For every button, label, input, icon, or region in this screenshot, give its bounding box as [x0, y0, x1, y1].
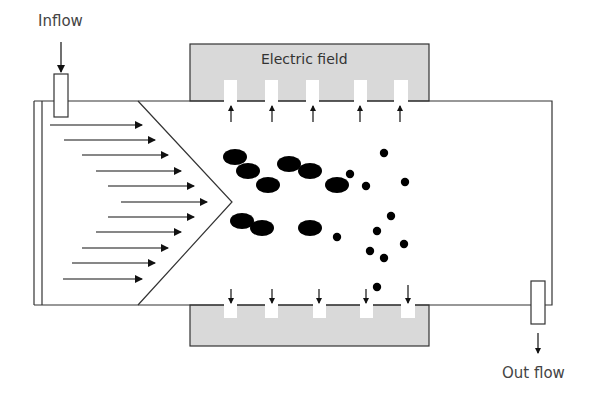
large-particles	[223, 149, 349, 236]
outflow-label: Out flow	[502, 364, 565, 382]
channel	[34, 101, 552, 305]
field-arrows-top	[231, 106, 400, 122]
electric-field-label: Electric field	[261, 51, 348, 67]
field-arrows-bottom	[231, 285, 408, 303]
bottom-electrode	[190, 304, 429, 346]
inflow-label: Inflow	[38, 12, 83, 30]
inflow-port	[54, 42, 68, 117]
small-particles	[333, 149, 409, 291]
outflow-port	[531, 281, 545, 353]
